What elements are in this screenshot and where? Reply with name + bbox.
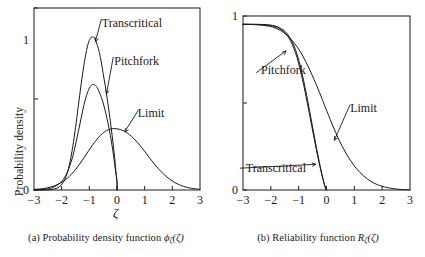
figure-container: Probability density −3−2−1012301Transcri…: [0, 0, 425, 257]
annotation-arrow: [107, 57, 114, 94]
x-tick-label: 3: [197, 193, 203, 207]
y-tick-label: 1: [23, 33, 29, 47]
x-axis-label-a: ζ: [113, 205, 118, 221]
caption-b-text: (b) Reliability function: [257, 232, 358, 243]
x-tick-label: −3: [237, 193, 250, 207]
curve-transcritical: [34, 37, 117, 190]
x-tick-label: −3: [28, 193, 41, 207]
y-tick-label: 0: [23, 183, 29, 197]
caption-a-arg: (ζ): [172, 232, 183, 243]
caption-a-text: (a) Probability density function: [28, 232, 164, 243]
plot-area-b: −3−2−1012301PitchforkLimitTranscritical: [212, 0, 424, 230]
x-tick-label: 1: [351, 193, 357, 207]
annotation-label-limit: Limit: [350, 101, 377, 115]
x-tick-label: 2: [379, 193, 385, 207]
caption-a: (a) Probability density function ϕζ(ζ): [0, 232, 212, 245]
x-tick-label: 2: [169, 193, 175, 207]
caption-b: (b) Reliability function Rζ(ζ): [212, 232, 424, 245]
plot-area-a: −3−2−1012301TranscriticalPitchforkLimit: [0, 0, 212, 230]
y-tick-label: 1: [232, 9, 238, 23]
annotation-arrow: [95, 19, 101, 41]
panel-probability-density: Probability density −3−2−1012301Transcri…: [0, 0, 212, 257]
annotation-arrow: [334, 105, 350, 141]
x-tick-label: −1: [292, 193, 305, 207]
panel-reliability: Reliability −3−2−1012301PitchforkLimitTr…: [212, 0, 424, 257]
x-tick-label: 0: [324, 193, 330, 207]
x-tick-label: 3: [407, 193, 413, 207]
y-tick-label: 0: [232, 183, 238, 197]
x-tick-label: −2: [55, 193, 68, 207]
x-tick-label: 1: [142, 193, 148, 207]
caption-b-arg: (ζ): [367, 232, 378, 243]
annotation-label-transcritical: Transcritical: [102, 16, 163, 30]
x-tick-label: −1: [83, 193, 96, 207]
curve-pitchfork: [34, 84, 117, 190]
annotation-label-pitchfork: Pitchfork: [114, 54, 159, 68]
annotation-label-limit: Limit: [138, 106, 165, 120]
x-tick-label: −2: [264, 193, 277, 207]
annotation-label-pitchfork: Pitchfork: [261, 63, 306, 77]
annotation-arrow: [125, 110, 139, 132]
